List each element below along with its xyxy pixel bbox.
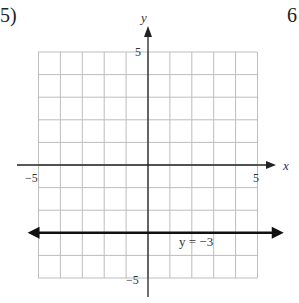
x-tick-label: 5 [253,171,259,185]
x-axis-label: x [282,158,289,173]
line-equation-label: y = −3 [179,234,213,249]
y-axis-label: y [139,10,147,25]
y-tick-label: −5 [126,273,139,287]
y-axis-arrow-icon [144,26,152,37]
x-axis-arrow-icon [266,161,276,169]
coordinate-plane: xy−555−5y = −3 [0,0,299,303]
line-arrow-right-icon [272,227,284,239]
line-arrow-left-icon [28,227,40,239]
y-tick-label: 5 [135,45,141,59]
x-tick-label: −5 [25,171,38,185]
